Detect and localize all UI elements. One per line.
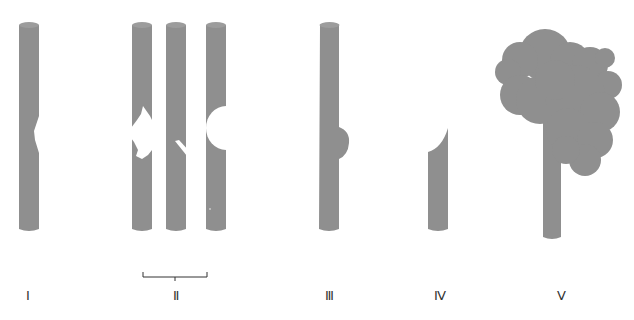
figure-ii-bracket [143,272,207,281]
figure-ii-rod-c [206,22,226,231]
figure-v-tree [495,29,622,239]
figure-ii-rod-a [131,22,152,231]
figure-iv-rod [428,128,448,231]
figure-label-iii: Ⅲ [325,288,334,304]
figure-label-i: Ⅰ [26,288,30,304]
figure-iii-rod [319,22,349,231]
figure-label-iv: Ⅳ [434,288,446,304]
diagram-canvas [0,0,634,320]
figure-i-rod [19,22,39,231]
figure-ii-rod-b [166,22,190,231]
figure-label-v: Ⅴ [557,288,566,304]
figure-label-ii: Ⅱ [173,288,179,304]
